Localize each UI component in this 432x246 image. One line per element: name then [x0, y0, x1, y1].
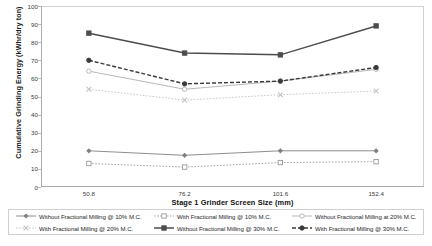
data-point-marker — [278, 148, 283, 153]
data-point-marker — [86, 148, 91, 153]
legend-label: With Fractional Milling @ 20% M.C. — [39, 225, 133, 232]
data-point-marker — [24, 226, 29, 231]
legend-swatch-icon — [153, 212, 175, 220]
data-point-marker — [374, 159, 378, 163]
series-3 — [86, 87, 378, 103]
data-point-marker — [278, 160, 282, 164]
legend-label: With Fractional Milling @ 30% M.C. — [315, 225, 409, 232]
data-point-marker — [374, 89, 379, 94]
legend-swatch-icon — [291, 212, 313, 220]
chart-figure: 0102030405060708090100 Cumulative Grindi… — [0, 0, 432, 246]
legend-item[interactable]: With Fractional Milling @ 10% M.C. — [147, 212, 285, 220]
series-0 — [86, 148, 378, 158]
legend-item[interactable]: With Fractional Milling @ 30% M.C. — [285, 224, 423, 232]
data-point-marker — [278, 53, 282, 57]
data-point-marker — [87, 69, 91, 73]
data-point-marker — [374, 148, 379, 153]
legend-label: Without Fractional Milling @ 30% M.C. — [177, 225, 280, 232]
data-point-marker — [182, 98, 187, 103]
series-line — [89, 69, 376, 89]
legend-item[interactable]: Without Fractional Milling @ 30% M.C. — [147, 224, 285, 232]
series-line — [89, 26, 376, 55]
series-1 — [87, 159, 379, 169]
legend-swatch-icon — [15, 224, 37, 232]
series-line — [89, 151, 376, 156]
data-point-marker — [87, 161, 91, 165]
data-point-marker — [182, 51, 186, 55]
data-point-marker — [87, 31, 91, 35]
legend-item[interactable]: With Fractional Milling @ 20% M.C. — [9, 224, 147, 232]
series-line — [89, 60, 376, 84]
series-line — [89, 162, 376, 167]
data-point-marker — [162, 226, 166, 230]
legend-swatch-icon — [15, 212, 37, 220]
legend-label: Without Fractional Milling @ 10% M.C. — [39, 213, 142, 220]
legend-label: With Fractional Milling @ 10% M.C. — [177, 213, 271, 220]
data-point-marker — [86, 87, 91, 92]
data-point-marker — [278, 92, 283, 97]
data-point-marker — [87, 58, 91, 62]
data-point-marker — [182, 87, 186, 91]
data-point-marker — [23, 213, 28, 218]
legend-swatch-icon — [291, 224, 313, 232]
data-point-marker — [278, 79, 282, 83]
legend-swatch-icon — [153, 224, 175, 232]
data-point-marker — [374, 24, 378, 28]
legend: Without Fractional Milling @ 10% M.C.Wit… — [8, 209, 424, 235]
data-point-marker — [300, 214, 304, 218]
series-line — [89, 89, 376, 100]
data-point-marker — [182, 82, 186, 86]
data-point-marker — [182, 153, 187, 158]
data-point-marker — [374, 65, 378, 69]
series-5 — [87, 58, 379, 86]
legend-item[interactable]: Without Fractional Milling @ 10% M.C. — [9, 212, 147, 220]
series-4 — [87, 24, 379, 57]
legend-item[interactable]: Without Fractional Milling at 20% M.C. — [285, 212, 423, 220]
data-point-marker — [162, 214, 166, 218]
data-point-marker — [300, 226, 304, 230]
legend-label: Without Fractional Milling at 20% M.C. — [315, 213, 416, 220]
data-point-marker — [182, 165, 186, 169]
